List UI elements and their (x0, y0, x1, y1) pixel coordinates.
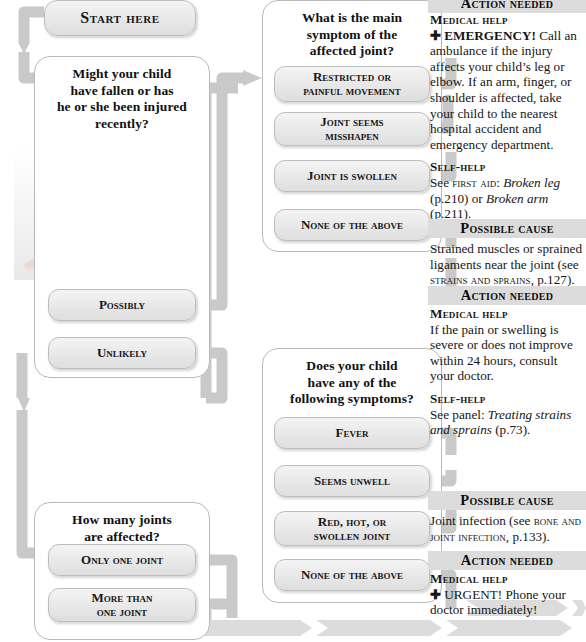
answer-none-of-the-above-1[interactable]: None of the above (274, 209, 430, 241)
ref-broken-leg-page: (p.210) or (430, 191, 486, 206)
cause-infection-text: Joint infection (see (430, 513, 534, 528)
selfhelp-see-panel: See panel: (430, 407, 488, 422)
advice-body-action-strain: Medical help If the pain or swelling is … (430, 306, 584, 438)
ref-broken-leg: Broken leg (503, 175, 560, 190)
ref-bone-joint-page: , p.133). (506, 529, 550, 544)
urgent-lead: URGENT! (444, 587, 502, 602)
answer-more-than-one-joint[interactable]: More than one joint (48, 588, 196, 622)
answer-joint-swollen[interactable]: Joint is swollen (274, 160, 430, 192)
advice-header-action-infection: Action needed (428, 551, 586, 570)
advice-body-cause-infection: Joint infection (see bone and joint infe… (430, 513, 584, 544)
answer-red-hot-swollen-joint[interactable]: Red, hot, or swollen joint (274, 511, 430, 546)
start-here-button[interactable]: Start here (44, 0, 196, 36)
label-medical-help-3: Medical help (430, 571, 584, 587)
advice-header-cause-infection: Possible cause (428, 491, 586, 510)
ref-treating-strains-page: (p.73). (492, 422, 530, 437)
advice-header-cause-strain: Possible cause (428, 219, 586, 238)
action-strain-text: If the pain or swelling is severe or doe… (430, 322, 573, 384)
question-title-following-symptoms: Does your child have any of the followin… (266, 358, 438, 408)
answer-possibly[interactable]: Possibly (48, 289, 196, 321)
label-medical-help-1: Medical help (430, 12, 584, 28)
label-self-help-2: Self-help (430, 391, 584, 407)
advice-body-action-infection: Medical help ✚ URGENT! Phone your doctor… (430, 571, 584, 618)
question-title-injury: Might your child have fallen or has he o… (38, 66, 206, 132)
selfhelp-text-2: See panel: Treating strains and sprains … (430, 407, 571, 438)
selfhelp-text-1: See first aid: Broken leg (p.210) or Bro… (430, 175, 560, 221)
answer-restricted-painful-movement[interactable]: Restricted or painful movement (274, 66, 430, 102)
emergency-lead-1: EMERGENCY! (444, 28, 536, 43)
question-title-joint-count: How many joints are affected? (38, 512, 206, 545)
emergency-cross-icon: ✚ (430, 28, 441, 43)
emergency-text-1: Call an ambulance if the injury affects … (430, 28, 577, 152)
question-title-main-symptom: What is the main symptom of the affected… (266, 10, 438, 60)
advice-body-action-emergency: Medical help ✚ EMERGENCY! Call an ambula… (430, 12, 584, 222)
advice-header-action-strain: Action needed (428, 286, 586, 305)
label-self-help-1: Self-help (430, 159, 584, 175)
answer-seems-unwell[interactable]: Seems unwell (274, 465, 430, 497)
answer-fever[interactable]: Fever (274, 417, 430, 449)
answer-unlikely[interactable]: Unlikely (48, 337, 196, 369)
advice-body-cause-strain: Strained muscles or sprained ligaments n… (430, 241, 584, 288)
label-medical-help-2: Medical help (430, 306, 584, 322)
answer-only-one-joint[interactable]: Only one joint (48, 544, 196, 576)
answer-joint-misshapen[interactable]: Joint seems misshapen (274, 112, 430, 146)
ref-strains-page: , p.127). (531, 272, 575, 287)
urgent-cross-icon: ✚ (430, 587, 441, 602)
ref-broken-arm: Broken arm (486, 191, 548, 206)
answer-none-of-the-above-2[interactable]: None of the above (274, 559, 430, 591)
cause-strain-text: Strained muscles or sprained ligaments n… (430, 241, 582, 272)
ref-first-aid: first aid (452, 175, 496, 190)
ref-strains-and-sprains: strains and sprains (430, 272, 531, 287)
